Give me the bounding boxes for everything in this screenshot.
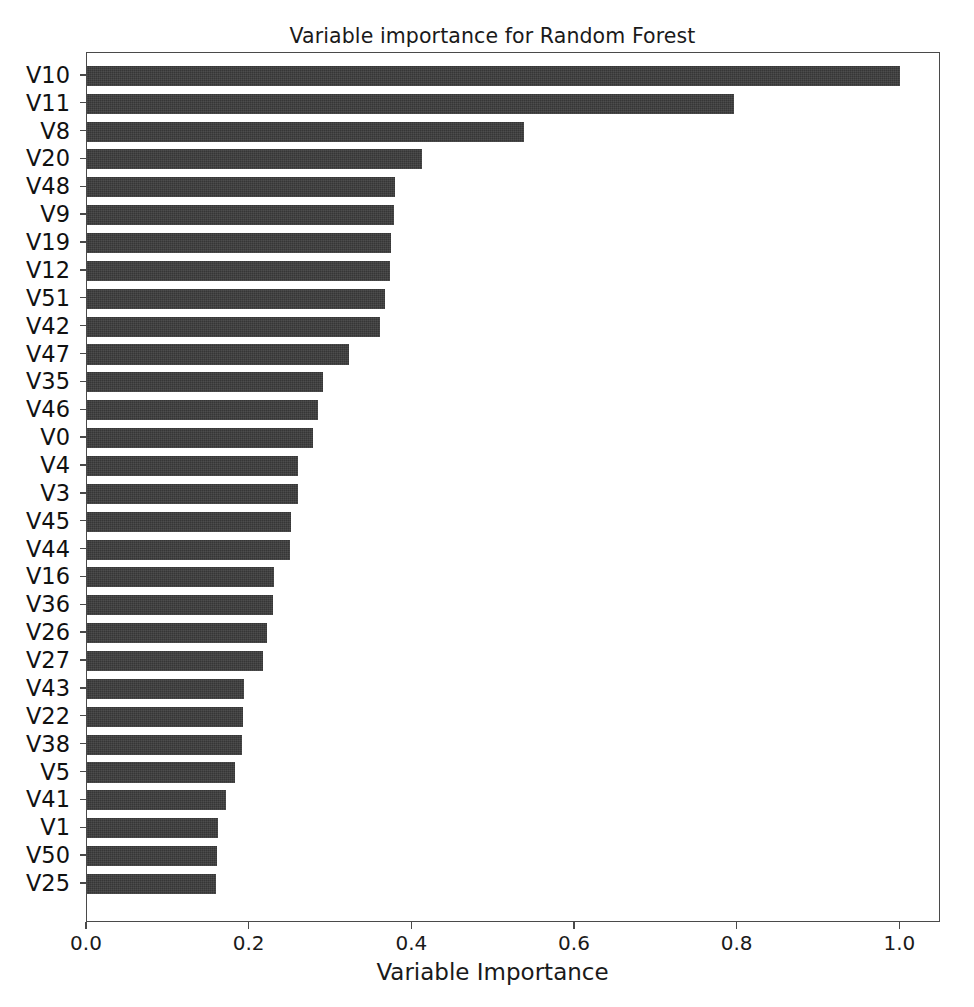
x-tick-label-0-8: 0.8 — [721, 931, 753, 955]
x-tick-label-0-6: 0.6 — [558, 931, 590, 955]
x-tick-mark — [85, 922, 86, 929]
bar-v44 — [87, 540, 290, 560]
bar-row — [87, 679, 939, 699]
bar-row — [87, 567, 939, 587]
bar-v41 — [87, 790, 226, 810]
x-tick-label-0-0: 0.0 — [70, 931, 102, 955]
y-tick-label-v8: V8 — [40, 119, 70, 142]
bar-v20 — [87, 149, 422, 169]
bar-row — [87, 790, 939, 810]
bar-row — [87, 177, 939, 197]
y-tick-label-v22: V22 — [26, 705, 70, 728]
y-axis-tick-labels: V10V11V8V20V48V9V19V12V51V42V47V35V46V0V… — [0, 52, 78, 922]
x-tick-mark — [248, 922, 249, 929]
bar-v38 — [87, 735, 242, 755]
y-tick-label-v5: V5 — [40, 760, 70, 783]
bar-v27 — [87, 651, 263, 671]
y-tick-label-v3: V3 — [40, 482, 70, 505]
x-tick-label-0-4: 0.4 — [395, 931, 427, 955]
y-tick-label-v35: V35 — [26, 370, 70, 393]
y-tick-label-v10: V10 — [26, 64, 70, 87]
bar-v46 — [87, 400, 318, 420]
y-tick-label-v41: V41 — [26, 788, 70, 811]
y-tick-label-v19: V19 — [26, 231, 70, 254]
bar-row — [87, 428, 939, 448]
bar-row — [87, 846, 939, 866]
bar-v42 — [87, 317, 380, 337]
y-tick-label-v48: V48 — [26, 175, 70, 198]
y-tick-label-v43: V43 — [26, 677, 70, 700]
bar-row — [87, 205, 939, 225]
bar-v1 — [87, 818, 218, 838]
x-tick-mark — [411, 922, 412, 929]
bar-v22 — [87, 707, 243, 727]
bar-row — [87, 400, 939, 420]
bar-v0 — [87, 428, 313, 448]
bar-v36 — [87, 595, 273, 615]
bar-v51 — [87, 289, 385, 309]
y-tick-label-v44: V44 — [26, 537, 70, 560]
x-axis-tick-labels: 0.00.20.40.60.81.0 — [86, 931, 940, 957]
y-tick-label-v11: V11 — [26, 91, 70, 114]
bar-v35 — [87, 372, 323, 392]
bar-v4 — [87, 456, 298, 476]
bar-row — [87, 874, 939, 894]
bar-v3 — [87, 484, 298, 504]
y-tick-label-v51: V51 — [26, 287, 70, 310]
bar-row — [87, 289, 939, 309]
y-tick-label-v36: V36 — [26, 593, 70, 616]
bar-v25 — [87, 874, 216, 894]
bars-layer — [87, 53, 939, 921]
bar-row — [87, 456, 939, 476]
y-tick-label-v27: V27 — [26, 649, 70, 672]
y-tick-label-v12: V12 — [26, 259, 70, 282]
y-tick-label-v38: V38 — [26, 732, 70, 755]
bar-row — [87, 651, 939, 671]
y-tick-label-v25: V25 — [26, 872, 70, 895]
y-tick-label-v16: V16 — [26, 565, 70, 588]
bar-v43 — [87, 679, 244, 699]
bar-v5 — [87, 762, 235, 782]
bar-v26 — [87, 623, 267, 643]
bar-row — [87, 762, 939, 782]
y-tick-label-v46: V46 — [26, 398, 70, 421]
y-tick-label-v42: V42 — [26, 314, 70, 337]
bar-v9 — [87, 205, 394, 225]
y-tick-label-v1: V1 — [40, 816, 70, 839]
bar-v47 — [87, 344, 349, 364]
bar-row — [87, 707, 939, 727]
bar-v8 — [87, 122, 524, 142]
bar-row — [87, 261, 939, 281]
bar-row — [87, 623, 939, 643]
x-tick-label-0-2: 0.2 — [233, 931, 265, 955]
bar-v50 — [87, 846, 217, 866]
y-tick-label-v50: V50 — [26, 844, 70, 867]
y-tick-label-v20: V20 — [26, 147, 70, 170]
x-tick-mark — [736, 922, 737, 929]
y-tick-label-v4: V4 — [40, 454, 70, 477]
y-tick-label-v47: V47 — [26, 342, 70, 365]
x-tick-label-1-0: 1.0 — [883, 931, 915, 955]
bar-row — [87, 818, 939, 838]
bar-row — [87, 122, 939, 142]
chart-title: Variable importance for Random Forest — [86, 24, 899, 48]
y-tick-label-v26: V26 — [26, 621, 70, 644]
bar-row — [87, 66, 939, 86]
bar-row — [87, 94, 939, 114]
bar-row — [87, 149, 939, 169]
bar-v11 — [87, 94, 734, 114]
bar-row — [87, 484, 939, 504]
bar-v45 — [87, 512, 291, 532]
bar-row — [87, 540, 939, 560]
bar-row — [87, 233, 939, 253]
x-tick-mark — [573, 922, 574, 929]
x-axis-tick-marks — [86, 922, 940, 929]
x-axis-title: Variable Importance — [86, 958, 899, 986]
bar-v48 — [87, 177, 395, 197]
bar-row — [87, 372, 939, 392]
bar-row — [87, 512, 939, 532]
bar-v19 — [87, 233, 391, 253]
bar-v10 — [87, 66, 900, 86]
y-tick-label-v0: V0 — [40, 426, 70, 449]
plot-area — [86, 52, 940, 922]
